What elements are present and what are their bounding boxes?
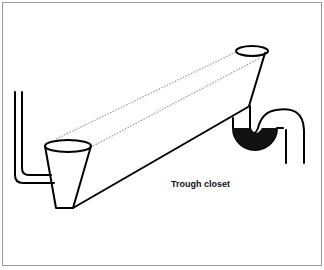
trough	[73, 107, 248, 208]
diagram-caption: Trough closet	[171, 179, 230, 189]
water	[233, 128, 277, 150]
inlet-funnel	[45, 140, 91, 152]
outlet-funnel	[236, 46, 268, 56]
trough-closet-diagram	[0, 0, 324, 270]
trough-top-back	[56, 50, 240, 139]
